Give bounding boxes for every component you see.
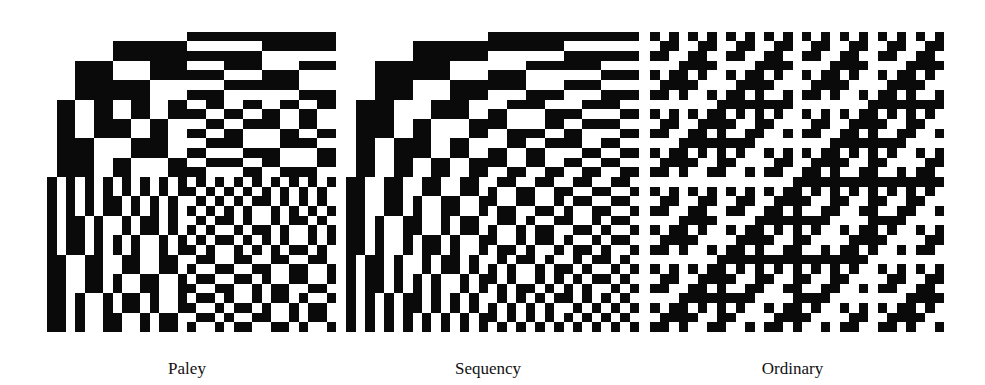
sequency-panel: Sequency (337, 22, 639, 332)
ordinary-panel: Ordinary (641, 22, 944, 332)
sequency-label: Sequency (337, 359, 639, 379)
paley-label: Paley (38, 359, 336, 379)
ordinary-matrix (641, 22, 944, 332)
paley-panel: Paley (38, 22, 336, 332)
paley-matrix (38, 22, 336, 332)
sequency-matrix (337, 22, 639, 332)
ordinary-label: Ordinary (641, 359, 944, 379)
